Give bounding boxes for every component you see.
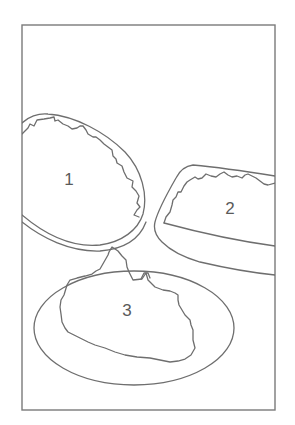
- dish-diagram: 1 2 3: [0, 0, 295, 425]
- label-1: 1: [64, 170, 73, 189]
- label-2: 2: [225, 199, 234, 218]
- label-3: 3: [122, 301, 131, 320]
- frame-border: [22, 25, 275, 410]
